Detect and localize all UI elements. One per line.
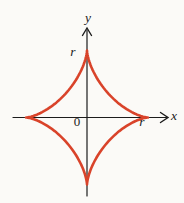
figure-background [0,0,184,203]
y-axis-label: y [85,11,91,25]
x-axis-label: x [171,109,177,123]
r-label-right: r [139,115,144,129]
r-label-top: r [70,45,75,59]
astroid-figure: y x r r 0 [0,0,184,203]
origin-label: 0 [74,115,81,128]
figure-canvas [0,0,184,203]
